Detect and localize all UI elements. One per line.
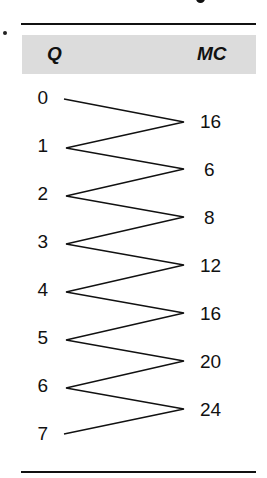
zigzag-connector-lines	[0, 0, 267, 478]
bottom-rule	[21, 471, 256, 473]
